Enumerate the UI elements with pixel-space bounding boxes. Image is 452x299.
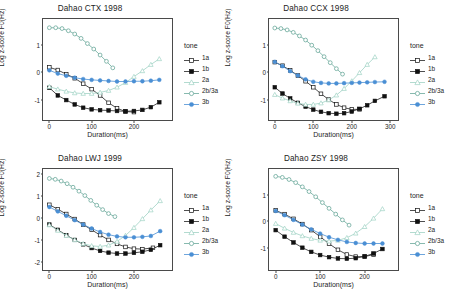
legend-item-1a[interactable]: 1a <box>183 52 227 63</box>
x-tick-mark <box>133 270 134 273</box>
data-point <box>291 230 296 234</box>
data-point <box>149 79 153 83</box>
data-point <box>342 81 346 85</box>
data-point <box>309 227 313 231</box>
legend-label: 1b <box>202 65 209 72</box>
legend-marker-open-square-icon <box>409 52 426 63</box>
legend-item-1b[interactable]: 1b <box>409 213 452 224</box>
data-point <box>318 253 322 257</box>
legend-item-2a[interactable]: 2a <box>183 74 227 85</box>
x-axis-label: Duration(ms) <box>42 281 173 288</box>
legend-marker-open-triangle-icon <box>409 224 426 235</box>
legend-item-2b-3a[interactable]: 2b/3a <box>409 85 452 96</box>
x-axis-tick: 0 <box>273 123 277 130</box>
data-point <box>287 178 291 182</box>
legend-item-2a[interactable]: 2a <box>183 224 227 235</box>
data-point <box>107 233 111 237</box>
data-point <box>327 235 331 239</box>
y-axis-tick: -1 <box>260 244 266 251</box>
data-point <box>345 235 350 239</box>
data-point <box>158 100 162 104</box>
legend-marker-open-circle-icon <box>183 85 200 96</box>
data-point <box>345 257 349 261</box>
legend-item-3b[interactable]: 3b <box>183 246 227 257</box>
legend-item-3b[interactable]: 3b <box>409 246 452 257</box>
data-point <box>372 242 376 246</box>
y-axis-tick: 1 <box>36 193 40 200</box>
panel-zsy: Dahao ZSY 1998 Log z-score F0(Hz) 10-101… <box>226 150 452 299</box>
plot-area: 10-10100200300 <box>268 18 399 121</box>
data-point <box>273 221 278 225</box>
plot-series-layer <box>269 19 398 120</box>
data-point <box>327 82 331 86</box>
data-point <box>132 247 136 251</box>
legend-label: 2a <box>202 76 209 83</box>
legend-marker-open-circle-icon <box>183 235 200 246</box>
data-point <box>90 227 94 231</box>
legend-label: 3b <box>202 248 209 255</box>
legend-label: 3b <box>428 248 435 255</box>
data-point <box>64 74 68 78</box>
data-point <box>105 59 109 63</box>
data-point <box>90 87 94 91</box>
legend-item-1b[interactable]: 1b <box>183 63 227 74</box>
data-point <box>115 80 119 84</box>
y-tick-mark <box>41 262 44 263</box>
data-point <box>81 106 85 110</box>
legend-item-2a[interactable]: 2a <box>409 74 452 85</box>
data-point <box>291 30 295 34</box>
data-point <box>342 111 346 115</box>
legend-item-2b-3a[interactable]: 2b/3a <box>183 235 227 246</box>
data-point <box>381 247 385 251</box>
legend-item-1b[interactable]: 1b <box>183 213 227 224</box>
data-point <box>132 74 137 78</box>
y-axis-tick: -2 <box>34 259 40 266</box>
legend-marker-open-triangle-icon <box>183 74 200 85</box>
y-tick-mark <box>267 247 270 248</box>
data-point <box>273 26 277 30</box>
x-axis-tick: 0 <box>48 123 52 130</box>
x-axis-label: Duration(ms) <box>268 281 399 288</box>
legend-marker-filled-circle-icon <box>409 96 426 107</box>
x-tick-mark <box>91 120 92 123</box>
x-tick-mark <box>390 120 391 123</box>
data-point <box>115 235 119 239</box>
data-point <box>107 79 111 83</box>
data-point <box>281 92 285 96</box>
legend-item-2a[interactable]: 2a <box>409 224 452 235</box>
data-point <box>307 190 311 194</box>
legend-marker-open-square-icon <box>183 52 200 63</box>
plot-series-layer <box>43 19 172 120</box>
legend-item-1a[interactable]: 1a <box>183 202 227 213</box>
y-axis-tick: 1 <box>262 192 266 199</box>
data-point <box>372 252 376 256</box>
data-point <box>282 226 287 230</box>
data-point <box>124 235 128 239</box>
data-point <box>381 242 385 246</box>
legend-item-2b-3a[interactable]: 2b/3a <box>183 85 227 96</box>
x-axis-tick: 100 <box>86 273 97 280</box>
data-point <box>273 60 277 64</box>
data-point <box>124 245 128 249</box>
data-point <box>140 235 144 239</box>
y-axis-label: Log z-score F0(Hz) <box>224 140 231 236</box>
legend-item-1a[interactable]: 1a <box>409 202 452 213</box>
legend-marker-filled-square-icon <box>183 63 200 74</box>
x-axis-tick: 100 <box>308 123 319 130</box>
data-point <box>86 42 90 46</box>
data-point <box>89 198 93 202</box>
data-point <box>322 55 326 59</box>
legend-item-3b[interactable]: 3b <box>183 96 227 107</box>
legend-item-2b-3a[interactable]: 2b/3a <box>409 235 452 246</box>
y-axis-tick: 2 <box>36 171 40 178</box>
legend-item-3b[interactable]: 3b <box>409 96 452 107</box>
data-point <box>311 108 315 112</box>
data-point <box>358 81 362 85</box>
data-point <box>301 246 305 250</box>
legend-item-1b[interactable]: 1b <box>409 63 452 74</box>
data-point <box>281 64 285 68</box>
legend-label: 2b/3a <box>202 87 218 94</box>
legend-item-1a[interactable]: 1a <box>409 52 452 63</box>
x-tick-mark <box>49 270 50 273</box>
x-axis-tick: 200 <box>347 123 358 130</box>
